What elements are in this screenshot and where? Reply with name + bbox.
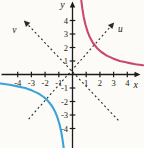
- x-tick-label-4: 4: [125, 78, 130, 88]
- x-tick-label-2: 2: [98, 78, 102, 88]
- y-tick-label-2: 2: [64, 43, 68, 53]
- u-axis-dashed-line: [29, 24, 113, 119]
- hyperbola-branch-quadrant-1: [81, 1, 143, 66]
- x-tick-label--3: -3: [28, 78, 35, 88]
- x-tick-label-1: 1: [84, 78, 88, 88]
- u-axis-label: u: [118, 24, 123, 34]
- y-tick-label-3: 3: [64, 29, 68, 39]
- y-tick-label-1: 1: [64, 56, 68, 66]
- x-axis-label: x: [133, 79, 139, 90]
- y-tick-label--2: -2: [61, 97, 68, 107]
- x-tick-label-3: 3: [111, 78, 115, 88]
- plot-svg: uvxy-4-3-2-11234-4-3-2-11234: [0, 0, 144, 148]
- rotated-axes-hyperbola-figure: uvxy-4-3-2-11234-4-3-2-11234: [0, 0, 144, 148]
- y-tick-label--1: -1: [61, 83, 68, 93]
- y-axis-arrowhead: [70, 2, 75, 8]
- x-axis-arrowhead: [135, 72, 141, 77]
- y-tick-label-4: 4: [64, 16, 69, 26]
- y-axis-label: y: [59, 0, 65, 10]
- y-tick-label--3: -3: [61, 110, 68, 120]
- v-axis-label: v: [12, 25, 17, 35]
- x-tick-label--2: -2: [42, 78, 49, 88]
